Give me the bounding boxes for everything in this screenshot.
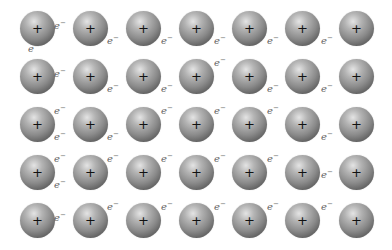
electron-charge: − [167, 152, 173, 160]
positive-ion-r1-c3: + [126, 11, 161, 46]
electron-charge: − [167, 34, 173, 42]
positive-ion-r5-c1: + [20, 203, 55, 238]
positive-ion-r4-c1: + [20, 155, 55, 190]
electron-charge: − [220, 56, 226, 64]
plus-sign-icon: + [244, 165, 255, 178]
electron-charge: − [327, 82, 333, 90]
electron-label: e− [54, 210, 66, 223]
electron-charge: − [113, 130, 119, 138]
positive-ion-r2-c6: + [285, 59, 320, 94]
positive-ion-r4-c4: + [179, 155, 214, 190]
positive-ion-r3-c2: + [73, 107, 108, 142]
electron-charge: − [327, 130, 333, 138]
plus-sign-icon: + [297, 213, 308, 226]
positive-ion-r4-c2: + [73, 155, 108, 190]
electron-charge: − [273, 104, 279, 112]
electron-label: e− [107, 199, 119, 212]
electron-label: e− [267, 103, 279, 116]
plus-sign-icon: + [297, 117, 308, 130]
plus-sign-icon: + [85, 69, 96, 82]
metallic-bonding-diagram: + + + + + + + + + + + + + + + + + + + + … [0, 0, 392, 250]
positive-ion-r3-c6: + [285, 107, 320, 142]
positive-ion-r3-c4: + [179, 107, 214, 142]
electron-label: e− [54, 18, 66, 31]
electron-charge: − [60, 211, 66, 219]
electron-label: e− [214, 55, 226, 68]
plus-sign-icon: + [191, 69, 202, 82]
electron-charge: − [220, 152, 226, 160]
plus-sign-icon: + [138, 21, 149, 34]
electron-charge: − [167, 104, 173, 112]
plus-sign-icon: + [138, 69, 149, 82]
positive-ion-r2-c7: + [339, 59, 374, 94]
electron-label: e− [107, 81, 119, 94]
electron-label: e− [107, 151, 119, 164]
positive-ion-r3-c3: + [126, 107, 161, 142]
electron-label: e− [214, 33, 226, 46]
electron-label: e− [267, 151, 279, 164]
electron-charge: − [220, 34, 226, 42]
positive-ion-r1-c5: + [232, 11, 267, 46]
plus-sign-icon: + [85, 213, 96, 226]
electron-label: e− [28, 41, 40, 54]
electron-label: e− [54, 129, 66, 142]
electron-charge: − [60, 67, 66, 75]
electron-charge: − [273, 82, 279, 90]
plus-sign-icon: + [191, 21, 202, 34]
plus-sign-icon: + [297, 21, 308, 34]
plus-sign-icon: + [297, 165, 308, 178]
electron-charge: − [34, 42, 40, 50]
electron-label: e− [321, 129, 333, 142]
plus-sign-icon: + [351, 165, 362, 178]
electron-label: e− [321, 81, 333, 94]
positive-ion-r1-c4: + [179, 11, 214, 46]
positive-ion-r1-c6: + [285, 11, 320, 46]
plus-sign-icon: + [244, 69, 255, 82]
electron-label: e− [107, 33, 119, 46]
electron-charge: − [273, 200, 279, 208]
plus-sign-icon: + [32, 69, 43, 82]
plus-sign-icon: + [32, 21, 43, 34]
electron-label: e− [54, 103, 66, 116]
positive-ion-r2-c4: + [179, 59, 214, 94]
electron-label: e− [267, 33, 279, 46]
electron-charge: − [273, 152, 279, 160]
electron-charge: − [273, 34, 279, 42]
electron-charge: − [60, 104, 66, 112]
positive-ion-r5-c5: + [232, 203, 267, 238]
electron-label: e− [161, 103, 173, 116]
electron-charge: − [113, 152, 119, 160]
plus-sign-icon: + [191, 213, 202, 226]
positive-ion-r4-c6: + [285, 155, 320, 190]
electron-label: e− [214, 199, 226, 212]
positive-ion-r3-c5: + [232, 107, 267, 142]
positive-ion-r5-c2: + [73, 203, 108, 238]
positive-ion-r1-c2: + [73, 11, 108, 46]
electron-label: e− [214, 151, 226, 164]
electron-label: e− [54, 151, 66, 164]
electron-label: e− [54, 66, 66, 79]
plus-sign-icon: + [32, 117, 43, 130]
electron-label: e− [321, 199, 333, 212]
plus-sign-icon: + [351, 117, 362, 130]
electron-charge: − [167, 82, 173, 90]
plus-sign-icon: + [138, 165, 149, 178]
positive-ion-r2-c3: + [126, 59, 161, 94]
electron-charge: − [327, 200, 333, 208]
plus-sign-icon: + [85, 21, 96, 34]
plus-sign-icon: + [351, 213, 362, 226]
electron-charge: − [113, 82, 119, 90]
positive-ion-r4-c7: + [339, 155, 374, 190]
plus-sign-icon: + [32, 213, 43, 226]
plus-sign-icon: + [297, 69, 308, 82]
plus-sign-icon: + [191, 117, 202, 130]
electron-label: e− [54, 177, 66, 190]
electron-label: e− [161, 33, 173, 46]
positive-ion-r2-c5: + [232, 59, 267, 94]
plus-sign-icon: + [32, 165, 43, 178]
electron-charge: − [60, 130, 66, 138]
electron-label: e− [214, 103, 226, 116]
positive-ion-r5-c6: + [285, 203, 320, 238]
electron-charge: − [327, 168, 333, 176]
plus-sign-icon: + [85, 165, 96, 178]
